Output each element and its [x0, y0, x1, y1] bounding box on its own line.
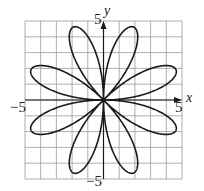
x-max-tick-label: 5: [175, 99, 183, 115]
polar-rose-chart: −5 5 5 −5 x y: [0, 0, 204, 191]
y-axis-label: y: [102, 3, 111, 18]
y-max-tick-label: 5: [94, 11, 102, 27]
x-axis-label: x: [185, 90, 193, 105]
x-min-tick-label: −5: [10, 99, 26, 115]
y-min-tick-label: −5: [86, 173, 102, 189]
